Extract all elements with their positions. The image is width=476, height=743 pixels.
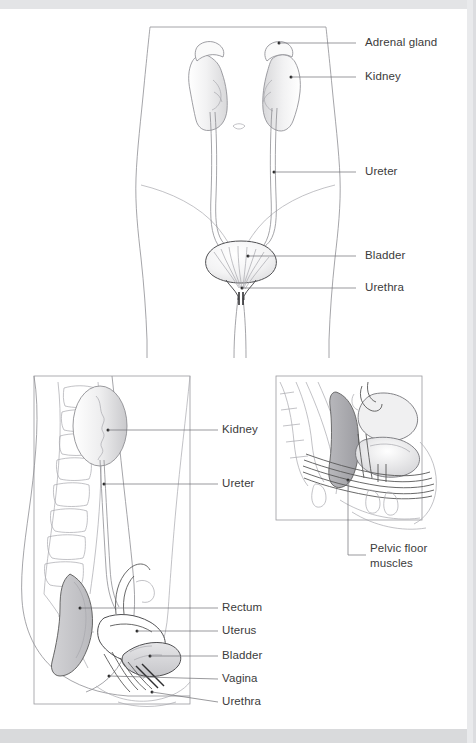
ureter-sagittal [100, 460, 119, 610]
label-ureter-sagittal: Ureter [222, 477, 255, 491]
figure-anterior-view: Adrenal gland Kidney Ureter Bladder Uret… [0, 0, 476, 360]
figure-pelvic-floor-inset: Pelvic floor muscles [270, 372, 476, 582]
label-urethra-anterior: Urethra [365, 281, 404, 295]
label-bladder-anterior: Bladder [365, 249, 405, 263]
inset-anatomy [280, 382, 436, 529]
label-urethra-sagittal: Urethra [222, 695, 261, 709]
label-vagina: Vagina [222, 672, 258, 686]
kidney-left [189, 55, 228, 131]
urethra [239, 292, 243, 305]
label-adrenal-gland: Adrenal gland [365, 36, 437, 50]
label-kidney-anterior: Kidney [365, 70, 401, 84]
leader-line-pelvic-floor [347, 479, 367, 556]
rectum [51, 574, 92, 676]
label-ureter-anterior: Ureter [365, 165, 398, 179]
kidney-right [263, 55, 301, 131]
label-bladder-sagittal: Bladder [222, 649, 262, 663]
label-uterus: Uterus [222, 624, 256, 638]
kidney-sagittal [73, 386, 127, 466]
label-rectum: Rectum [222, 601, 262, 615]
bottom-border-band [0, 729, 476, 743]
label-pelvic-floor-muscles: Pelvic floor muscles [370, 541, 462, 570]
label-kidney-sagittal: Kidney [222, 423, 258, 437]
bladder [206, 241, 277, 300]
figure-sagittal-view: Kidney Ureter Rectum Uterus Bladder Vagi… [0, 368, 300, 728]
illustration-page: Adrenal gland Kidney Ureter Bladder Uret… [0, 0, 476, 743]
